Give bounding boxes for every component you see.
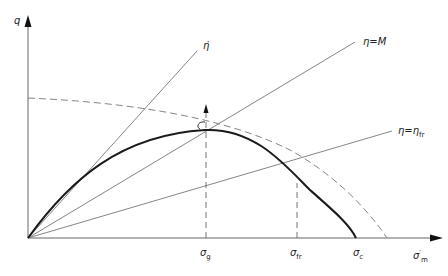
eta-dot-label: η̇ (203, 40, 209, 51)
sigma-g-subscript: g (206, 253, 210, 261)
sigma-fr-subscript: fr (296, 253, 301, 261)
sigma-c-subscript: c (359, 253, 363, 261)
q-axis-label: q (14, 15, 20, 26)
line-eta-fr (28, 131, 392, 238)
sigma-axis-arrow-icon (430, 235, 443, 242)
flow-direction-arrow-icon (204, 104, 209, 113)
sigma-m-subscript: m (421, 256, 428, 264)
normality-angle-arc-icon (198, 122, 205, 129)
eta-fr-subscript: fr (419, 131, 424, 139)
sigma-fr-tick-label: σfr (290, 247, 302, 258)
line-eta-dot (28, 51, 197, 238)
sigma-m-axis-label: σ′m (413, 250, 428, 261)
eta-M-label: η=M (363, 36, 386, 47)
sigma-g-tick-label: σg (200, 247, 211, 258)
sigma-c-tick-label: σc (353, 247, 363, 258)
line-eta-M (28, 42, 355, 238)
eta-fr-symbol: η=η (398, 125, 419, 136)
q-axis-arrow-icon (25, 15, 32, 27)
reference-ellipse-curve (28, 98, 387, 238)
eta-fr-label: η=ηfr (398, 125, 424, 136)
